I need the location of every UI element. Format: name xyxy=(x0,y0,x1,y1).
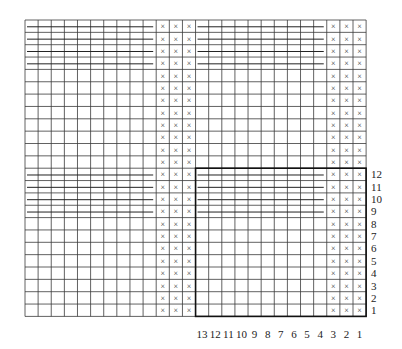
stitch-x: × xyxy=(357,244,362,253)
column-label: 11 xyxy=(223,328,234,340)
stitch-x: × xyxy=(187,121,192,130)
stitch-x: × xyxy=(161,146,166,155)
stitch-x: × xyxy=(174,146,179,155)
stitch-x: × xyxy=(357,170,362,179)
stitch-x: × xyxy=(357,220,362,229)
stitch-x: × xyxy=(187,84,192,93)
stitch-x: × xyxy=(344,133,349,142)
stitch-x: × xyxy=(344,47,349,56)
stitch-x: × xyxy=(331,22,336,31)
stitch-x: × xyxy=(344,121,349,130)
stitch-x: × xyxy=(357,269,362,278)
stitch-x: × xyxy=(344,158,349,167)
stitch-x: × xyxy=(161,22,166,31)
stitch-x: × xyxy=(344,59,349,68)
column-label: 10 xyxy=(236,328,248,340)
row-label: 9 xyxy=(371,205,377,217)
stitch-x: × xyxy=(357,121,362,130)
stitch-x: × xyxy=(344,306,349,315)
stitch-x: × xyxy=(174,22,179,31)
stitch-x: × xyxy=(187,109,192,118)
stitch-x: × xyxy=(357,195,362,204)
stitch-x: × xyxy=(161,72,166,81)
stitch-x: × xyxy=(331,195,336,204)
stitch-x: × xyxy=(161,257,166,266)
stitch-x: × xyxy=(161,59,166,68)
row-label: 6 xyxy=(371,242,377,254)
stitch-x: × xyxy=(357,257,362,266)
stitch-x: × xyxy=(344,294,349,303)
stitch-x: × xyxy=(161,183,166,192)
stitch-x: × xyxy=(161,220,166,229)
stitch-x: × xyxy=(161,84,166,93)
stitch-x: × xyxy=(331,294,336,303)
stitch-x: × xyxy=(161,195,166,204)
stitch-x: × xyxy=(344,207,349,216)
stitch-x: × xyxy=(161,121,166,130)
stitch-x: × xyxy=(174,72,179,81)
column-label: 8 xyxy=(265,328,271,340)
row-label: 1 xyxy=(371,304,377,316)
stitch-x: × xyxy=(174,244,179,253)
stitch-x: × xyxy=(174,195,179,204)
column-label: 3 xyxy=(331,328,337,340)
stitch-x: × xyxy=(331,133,336,142)
stitch-x: × xyxy=(331,47,336,56)
stitch-x: × xyxy=(161,35,166,44)
stitch-x: × xyxy=(331,158,336,167)
stitch-x: × xyxy=(187,96,192,105)
stitch-x: × xyxy=(161,109,166,118)
stitch-x: × xyxy=(161,294,166,303)
stitch-x: × xyxy=(187,257,192,266)
stitch-x: × xyxy=(357,47,362,56)
row-labels: 123456789101112 xyxy=(371,168,383,316)
stitch-x: × xyxy=(161,158,166,167)
stitch-x: × xyxy=(357,207,362,216)
column-labels: 13121110987654321 xyxy=(197,328,363,340)
row-label: 12 xyxy=(371,168,382,180)
stitch-x: × xyxy=(161,207,166,216)
stitch-x: × xyxy=(331,121,336,130)
column-label: 5 xyxy=(304,328,310,340)
stitch-x: × xyxy=(344,35,349,44)
column-label: 4 xyxy=(317,328,323,340)
row-label: 2 xyxy=(371,292,377,304)
stitch-x: × xyxy=(174,170,179,179)
stitch-x: × xyxy=(187,158,192,167)
stitch-x: × xyxy=(344,109,349,118)
stitch-x: × xyxy=(331,183,336,192)
stitch-x: × xyxy=(187,133,192,142)
stitch-x: × xyxy=(344,96,349,105)
stitch-x: × xyxy=(357,22,362,31)
stitch-x: × xyxy=(187,294,192,303)
stitch-x: × xyxy=(187,244,192,253)
stitch-x: × xyxy=(344,183,349,192)
row-label: 10 xyxy=(371,193,383,205)
stitch-x: × xyxy=(187,220,192,229)
stitch-x: × xyxy=(331,232,336,241)
row-label: 3 xyxy=(371,280,377,292)
stitch-x: × xyxy=(344,220,349,229)
stitch-x: × xyxy=(174,133,179,142)
stitch-x: × xyxy=(357,59,362,68)
stitch-x: × xyxy=(161,306,166,315)
column-label: 6 xyxy=(291,328,297,340)
stitch-x: × xyxy=(357,146,362,155)
stitch-x: × xyxy=(357,35,362,44)
stitch-x: × xyxy=(331,84,336,93)
row-label: 7 xyxy=(371,230,377,242)
stitch-x: × xyxy=(174,282,179,291)
stitch-x: × xyxy=(161,232,166,241)
row-label: 11 xyxy=(371,181,382,193)
stitch-x: × xyxy=(357,84,362,93)
stitch-x: × xyxy=(174,35,179,44)
stitch-x: × xyxy=(187,146,192,155)
stitch-x: × xyxy=(187,282,192,291)
stitch-x: × xyxy=(187,232,192,241)
stitch-x: × xyxy=(331,72,336,81)
stitch-x: × xyxy=(187,195,192,204)
stitch-x: × xyxy=(344,257,349,266)
stitch-x: × xyxy=(357,72,362,81)
stitch-x: × xyxy=(174,109,179,118)
column-label: 9 xyxy=(252,328,258,340)
